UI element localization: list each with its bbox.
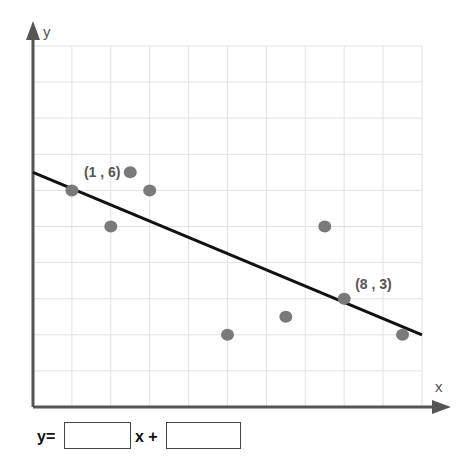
data-point bbox=[338, 293, 351, 305]
data-point bbox=[318, 221, 331, 233]
grid-lines bbox=[33, 46, 422, 407]
data-point bbox=[143, 184, 156, 196]
scatter-plot: y x (1 , 6)(8 , 3) bbox=[0, 0, 475, 415]
point-label: (8 , 3) bbox=[355, 276, 392, 292]
point-label: (1 , 6) bbox=[84, 164, 121, 180]
intercept-input[interactable] bbox=[166, 422, 241, 449]
data-point bbox=[221, 329, 234, 341]
data-point bbox=[124, 166, 137, 178]
x-axis-arrow-icon bbox=[432, 400, 451, 414]
data-point bbox=[65, 184, 78, 196]
x-axis-label: x bbox=[435, 378, 443, 395]
data-point bbox=[104, 221, 117, 233]
y-axis-arrow-icon bbox=[26, 21, 40, 40]
slope-input[interactable] bbox=[64, 422, 131, 449]
data-points bbox=[65, 166, 409, 340]
equation-row: y= x + bbox=[0, 418, 475, 458]
point-annotations: (1 , 6)(8 , 3) bbox=[84, 164, 392, 291]
equation-prefix: y= bbox=[37, 428, 55, 446]
y-axis-label: y bbox=[43, 23, 51, 40]
data-point bbox=[396, 329, 409, 341]
equation-middle: x + bbox=[135, 428, 158, 446]
axes: y x bbox=[26, 21, 451, 414]
data-point bbox=[279, 311, 292, 323]
